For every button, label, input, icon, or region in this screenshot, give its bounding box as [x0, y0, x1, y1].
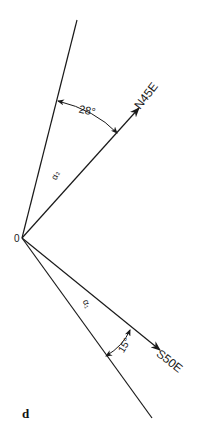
origin-label: 0	[14, 233, 20, 244]
angle-label-28: 28°	[78, 103, 97, 118]
sector-label-alpha2: α₂	[49, 169, 62, 181]
panel-label: d	[22, 406, 30, 421]
direction-label-n45e: N45E	[131, 80, 161, 112]
diagram-canvas: 28° N45E α₂ 0 α₁ 15° S50E d	[0, 0, 205, 448]
direction-label-s50e: S50E	[154, 346, 186, 375]
n45e-direction-arrow	[22, 108, 139, 238]
angle-label-15: 15°	[116, 336, 133, 355]
sector-label-alpha1: α₁	[81, 298, 94, 310]
upper-boundary-line	[22, 20, 77, 238]
